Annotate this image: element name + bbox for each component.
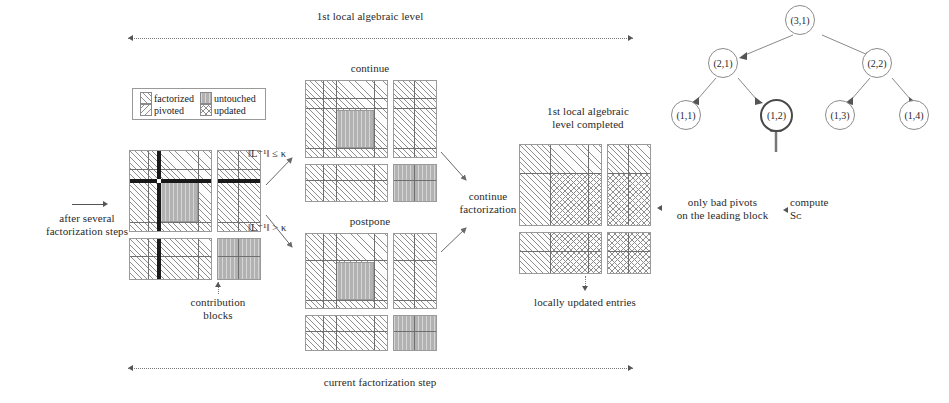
factorized-swatch-icon bbox=[140, 92, 152, 104]
legend-item-untouched: untouched bbox=[198, 92, 260, 104]
leading-untouched-block bbox=[160, 182, 198, 222]
postpone-quad-top-right bbox=[393, 233, 437, 309]
contribution-block-fill bbox=[218, 239, 260, 279]
legend-item-pivoted: pivoted bbox=[138, 104, 198, 116]
locally-updated-entries-label: locally updated entries bbox=[510, 296, 660, 309]
tree-node-label: (1,2) bbox=[767, 110, 786, 121]
gridline bbox=[588, 145, 589, 225]
edge-postpone-to-merge bbox=[441, 228, 466, 252]
completed-quad-bottom-right bbox=[607, 232, 651, 274]
pivot-col-marker bbox=[157, 151, 161, 232]
gridline bbox=[608, 251, 650, 252]
postpone-quad-top-left bbox=[305, 233, 388, 309]
gridline bbox=[394, 260, 436, 261]
bad-pivots-arrow bbox=[657, 205, 662, 211]
gridline bbox=[394, 148, 436, 149]
gridline bbox=[336, 316, 337, 350]
tree-node-1-1[interactable]: (1,1) bbox=[671, 100, 701, 130]
gridline bbox=[323, 165, 324, 201]
updated-swatch-icon bbox=[200, 104, 212, 116]
tree-edge-21-11 bbox=[697, 78, 716, 100]
tree-node-1-4[interactable]: (1,4) bbox=[899, 100, 929, 130]
legend-label-untouched: untouched bbox=[214, 93, 256, 104]
top-bracket-line bbox=[128, 38, 633, 39]
postpone-quad-bottom-right bbox=[393, 315, 437, 351]
completed-quad-bottom-left bbox=[519, 232, 602, 274]
figure-canvas: 1st local algebraic level current factor… bbox=[0, 0, 949, 403]
gridline bbox=[394, 300, 436, 301]
locally-updated-pointer-arrow bbox=[582, 286, 588, 291]
continue-quad-bottom-left bbox=[305, 164, 388, 202]
gridline bbox=[394, 180, 436, 181]
pivot-row-marker bbox=[218, 179, 261, 183]
gridline bbox=[550, 145, 551, 225]
tree-edge-31-21 bbox=[745, 35, 793, 55]
continue-title: continue bbox=[325, 62, 415, 75]
after-several-steps-arrowhead bbox=[103, 201, 108, 207]
legend-label-pivoted: pivoted bbox=[154, 105, 184, 116]
quad-top-right-fill bbox=[218, 151, 260, 231]
matrix-postpone bbox=[305, 233, 437, 351]
gridline bbox=[374, 316, 375, 350]
tree-arrow-12 bbox=[755, 97, 763, 105]
completed-quad-top-right bbox=[607, 144, 651, 226]
completed-updated-block-tr bbox=[608, 173, 651, 226]
postpone-quad-tr-fill bbox=[394, 234, 436, 308]
continue-contribution-fill bbox=[394, 165, 436, 201]
continue-quad-top-left bbox=[305, 80, 388, 158]
tree-node-label: (2,1) bbox=[713, 58, 732, 69]
quad-top-left bbox=[129, 150, 212, 232]
tree-node-1-2-selected[interactable]: (1,2) bbox=[760, 99, 793, 132]
gridline bbox=[323, 81, 324, 157]
pivot-row-marker bbox=[130, 179, 212, 183]
gridline bbox=[148, 151, 149, 231]
tree-edge-22-14 bbox=[892, 78, 911, 100]
gridline bbox=[238, 239, 239, 279]
gridline bbox=[414, 165, 415, 201]
only-bad-pivots-label: only bad pivots on the leading block bbox=[665, 196, 780, 223]
bottom-bracket-arrow-left bbox=[128, 365, 133, 371]
tree-node-label: (2,2) bbox=[867, 58, 886, 69]
tree-node-label: (3,1) bbox=[790, 15, 809, 26]
gridline bbox=[336, 165, 337, 201]
gridline bbox=[336, 81, 337, 157]
gridline bbox=[238, 151, 239, 231]
legend-label-updated: updated bbox=[214, 105, 246, 116]
top-level-label: 1st local algebraic level bbox=[270, 10, 470, 23]
gridline bbox=[588, 233, 589, 273]
completed-updated-block-bl bbox=[550, 233, 602, 274]
gridline bbox=[550, 233, 551, 273]
edge-continue-to-merge bbox=[441, 152, 466, 180]
gridline bbox=[394, 331, 436, 332]
gridline bbox=[374, 165, 375, 201]
completed-updated-block-tl bbox=[550, 173, 602, 226]
tree-node-2-1[interactable]: (2,1) bbox=[708, 48, 738, 78]
tree-edge-21-12 bbox=[738, 78, 757, 100]
tree-edge-31-22 bbox=[822, 35, 868, 55]
tree-node-1-3[interactable]: (1,3) bbox=[825, 100, 855, 130]
contribution-pointer-arrow bbox=[215, 282, 221, 287]
gridline bbox=[628, 233, 629, 273]
tree-node-3-1[interactable]: (3,1) bbox=[785, 5, 815, 35]
edge-to-continue bbox=[266, 158, 292, 185]
tree-edge-22-13 bbox=[851, 78, 870, 100]
gridline bbox=[336, 234, 337, 308]
gridline bbox=[414, 234, 415, 308]
continue-leading-block bbox=[336, 110, 374, 148]
gridline bbox=[394, 108, 436, 109]
gridline bbox=[148, 239, 149, 279]
tree-arrow-21 bbox=[739, 52, 747, 60]
gridline bbox=[323, 234, 324, 308]
pivot-intersection-hole bbox=[157, 179, 161, 183]
bottom-level-label: current factorization step bbox=[270, 376, 490, 389]
quad-top-right bbox=[217, 150, 261, 232]
top-bracket-arrow-right bbox=[628, 35, 633, 41]
tree-node-2-2[interactable]: (2,2) bbox=[862, 48, 892, 78]
quad-bottom-right-contribution bbox=[217, 238, 261, 280]
gridline bbox=[374, 234, 375, 308]
postpone-leading-block bbox=[336, 262, 374, 300]
completed-updated-block-br bbox=[608, 233, 650, 273]
legend-item-factorized: factorized bbox=[138, 92, 198, 104]
pivoted-swatch-icon bbox=[140, 104, 152, 116]
contribution-blocks-label: contribution blocks bbox=[173, 296, 263, 323]
